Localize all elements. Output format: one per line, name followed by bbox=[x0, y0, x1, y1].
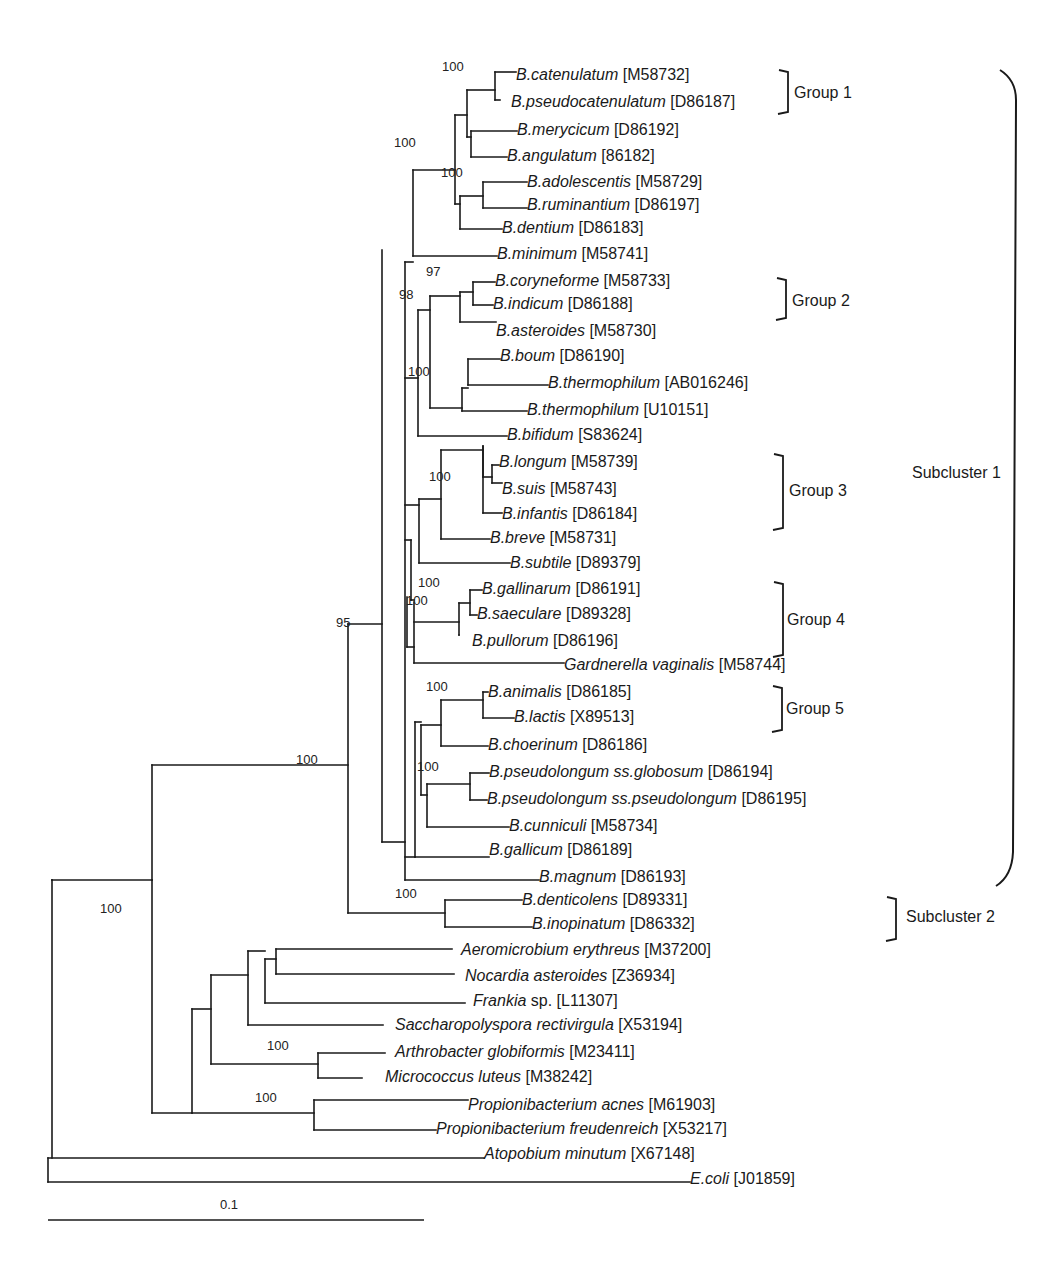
accession-number: [M58743] bbox=[546, 480, 617, 497]
taxon-name: Aeromicrobium erythreus bbox=[461, 941, 640, 958]
taxon-label: B.asteroides [M58730] bbox=[496, 322, 656, 340]
taxon-name: B.animalis bbox=[488, 683, 562, 700]
taxon-name: B.suis bbox=[502, 480, 546, 497]
taxon-label: Saccharopolyspora rectivirgula [X53194] bbox=[395, 1016, 682, 1034]
bootstrap-value: 100 bbox=[267, 1039, 289, 1053]
accession-number: [X53217] bbox=[658, 1120, 727, 1137]
accession-number: [D86195] bbox=[737, 790, 806, 807]
taxon-label: B.saeculare [D89328] bbox=[477, 605, 631, 623]
taxon-label: B.magnum [D86193] bbox=[539, 868, 686, 886]
group-bracket bbox=[776, 278, 786, 320]
accession-number: [M23411] bbox=[565, 1043, 635, 1060]
accession-number: [D86186] bbox=[578, 736, 647, 753]
taxon-label: B.suis [M58743] bbox=[502, 480, 617, 498]
accession-number: [J01859] bbox=[729, 1170, 795, 1187]
taxon-name: B.inopinatum bbox=[532, 915, 625, 932]
taxon-label: Micrococcus luteus [M38242] bbox=[385, 1068, 592, 1086]
taxon-label: B.longum [M58739] bbox=[499, 453, 638, 471]
accession-number: [D89379] bbox=[571, 554, 640, 571]
taxon-name: B.pseudolongum ss.pseudolongum bbox=[487, 790, 737, 807]
taxon-name: B.pseudocatenulatum bbox=[511, 93, 666, 110]
accession-number: [D86188] bbox=[563, 295, 632, 312]
accession-number: [M37200] bbox=[640, 941, 711, 958]
accession-number: [M58739] bbox=[567, 453, 638, 470]
bootstrap-value: 100 bbox=[100, 902, 122, 916]
accession-number: [D86184] bbox=[568, 505, 637, 522]
taxon-label: Propionibacterium acnes [M61903] bbox=[468, 1096, 715, 1114]
taxon-label: B.minimum [M58741] bbox=[497, 245, 648, 263]
taxon-name: Frankia bbox=[473, 992, 526, 1009]
taxon-label: B.cunniculi [M58734] bbox=[509, 817, 658, 835]
group-bracket bbox=[886, 897, 896, 941]
taxon-label: B.lactis [X89513] bbox=[514, 708, 634, 726]
taxon-label: B.boum [D86190] bbox=[500, 347, 625, 365]
taxon-name: B.minimum bbox=[497, 245, 577, 262]
taxon-name: Arthrobacter globiformis bbox=[395, 1043, 565, 1060]
taxon-label: B.animalis [D86185] bbox=[488, 683, 631, 701]
taxon-label: B.dentium [D86183] bbox=[502, 219, 643, 237]
accession-number: sp. [L11307] bbox=[526, 992, 617, 1009]
taxon-label: B.ruminantium [D86197] bbox=[527, 196, 700, 214]
taxon-label: B.breve [M58731] bbox=[490, 529, 616, 547]
group-label: Group 3 bbox=[789, 482, 847, 500]
taxon-label: B.inopinatum [D86332] bbox=[532, 915, 695, 933]
accession-number: [D86183] bbox=[574, 219, 643, 236]
taxon-label: E.coli [J01859] bbox=[690, 1170, 795, 1188]
taxon-name: B.asteroides bbox=[496, 322, 585, 339]
taxon-label: B.indicum [D86188] bbox=[493, 295, 633, 313]
bootstrap-value: 100 bbox=[442, 60, 464, 74]
accession-number: [M58730] bbox=[585, 322, 656, 339]
taxon-name: B.boum bbox=[500, 347, 555, 364]
accession-number: [D86192] bbox=[609, 121, 678, 138]
bootstrap-value: 100 bbox=[255, 1091, 277, 1105]
subcluster-1-label: Subcluster 1 bbox=[912, 464, 1001, 482]
accession-number: [M61903] bbox=[644, 1096, 715, 1113]
accession-number: [D86332] bbox=[625, 915, 694, 932]
taxon-label: B.merycicum [D86192] bbox=[517, 121, 679, 139]
taxon-label: B.adolescentis [M58729] bbox=[527, 173, 702, 191]
taxon-label: B.thermophilum [U10151] bbox=[527, 401, 708, 419]
taxon-label: B.coryneforme [M58733] bbox=[495, 272, 670, 290]
taxon-name: E.coli bbox=[690, 1170, 729, 1187]
taxon-name: B.lactis bbox=[514, 708, 566, 725]
taxon-label: Propionibacterium freudenreich [X53217] bbox=[436, 1120, 727, 1138]
taxon-label: B.pseudolongum ss.globosum [D86194] bbox=[489, 763, 773, 781]
taxon-label: B.subtile [D89379] bbox=[510, 554, 641, 572]
taxon-name: Nocardia asteroides bbox=[465, 967, 607, 984]
accession-number: [X67148] bbox=[626, 1145, 695, 1162]
accession-number: [M58734] bbox=[586, 817, 657, 834]
taxon-name: B.denticolens bbox=[522, 891, 618, 908]
accession-number: [M58744] bbox=[714, 656, 785, 673]
bootstrap-value: 95 bbox=[336, 616, 350, 630]
bootstrap-value: 100 bbox=[426, 680, 448, 694]
bootstrap-value: 100 bbox=[429, 470, 451, 484]
taxon-label: B.pseudocatenulatum [D86187] bbox=[511, 93, 735, 111]
accession-number: [D86197] bbox=[630, 196, 699, 213]
taxon-name: B.ruminantium bbox=[527, 196, 630, 213]
taxon-label: Nocardia asteroides [Z36934] bbox=[465, 967, 675, 985]
group-label: Group 4 bbox=[787, 611, 845, 629]
group-label: Group 5 bbox=[786, 700, 844, 718]
taxon-label: B.choerinum [D86186] bbox=[488, 736, 647, 754]
taxon-label: B.angulatum [86182] bbox=[507, 147, 655, 165]
accession-number: [M58741] bbox=[577, 245, 648, 262]
group-bracket bbox=[773, 454, 783, 530]
taxon-label: B.catenulatum [M58732] bbox=[516, 66, 689, 84]
accession-number: [AB016246] bbox=[660, 374, 748, 391]
taxon-label: Frankia sp. [L11307] bbox=[473, 992, 618, 1010]
taxon-name: B.saeculare bbox=[477, 605, 562, 622]
bootstrap-value: 97 bbox=[426, 265, 440, 279]
taxon-name: Gardnerella vaginalis bbox=[564, 656, 714, 673]
accession-number: [X89513] bbox=[566, 708, 635, 725]
taxon-label: B.infantis [D86184] bbox=[502, 505, 637, 523]
bootstrap-value: 100 bbox=[394, 136, 416, 150]
taxon-name: B.bifidum bbox=[507, 426, 574, 443]
taxon-name: B.magnum bbox=[539, 868, 616, 885]
taxon-name: B.longum bbox=[499, 453, 567, 470]
taxon-name: B.coryneforme bbox=[495, 272, 599, 289]
accession-number: [D89328] bbox=[562, 605, 631, 622]
taxon-name: B.cunniculi bbox=[509, 817, 586, 834]
taxon-label: B.gallicum [D86189] bbox=[489, 841, 632, 859]
group-brackets bbox=[772, 70, 896, 941]
scale-bar-label: 0.1 bbox=[220, 1198, 238, 1212]
